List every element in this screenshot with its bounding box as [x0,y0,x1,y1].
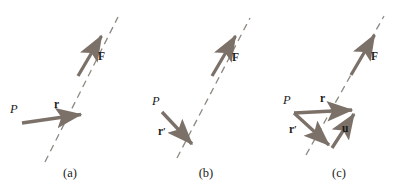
point-label-p-c: P [283,94,291,107]
line-of-action-b [177,18,250,158]
vector-label-u-c: u [342,123,348,135]
caption-a: (a) [0,167,140,180]
vector-r-prime-b [162,112,192,144]
vector-r-prime-c [294,113,329,145]
vector-label-f-c: F [371,51,378,63]
point-label-p-a: P [10,103,18,116]
vector-label-r-prime-b: r′ [158,126,166,138]
vector-label-f-b: F [232,52,239,64]
panel-b: P r′ F (b) [136,0,276,190]
panel-a: P r F (a) [0,0,140,190]
vector-label-r-prime-c: r′ [289,124,297,136]
vector-label-r-prime-c-mark: ′ [294,124,297,135]
caption-c: (c) [272,167,406,180]
point-label-p-b: P [152,95,160,108]
panel-a-graphics [0,0,140,190]
vector-label-r-a: r [54,99,59,111]
vector-label-r-c: r [320,93,325,105]
panel-c: P r r′ u F (c) [272,0,406,190]
panel-c-graphics [272,0,406,190]
caption-b: (b) [136,167,276,180]
vector-r-a [22,115,81,124]
vector-label-f-a: F [98,51,105,63]
vector-r-c [294,110,352,113]
vector-label-r-prime-b-mark: ′ [163,126,166,137]
line-of-action-a [45,17,118,162]
figure-container: P r F (a) P r′ F (b) [0,0,406,190]
